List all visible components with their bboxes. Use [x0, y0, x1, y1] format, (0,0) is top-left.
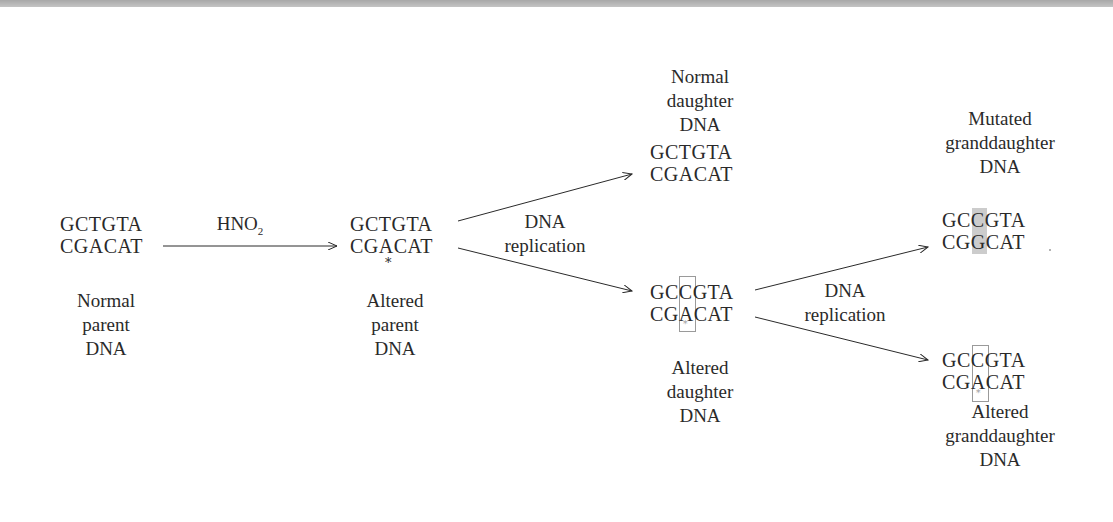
bottom-strand: CGGCAT	[942, 231, 1026, 253]
top-strand: GCTGTA	[650, 141, 733, 163]
stray-dot	[1049, 249, 1051, 251]
top-strand: GCCGTA	[650, 281, 734, 303]
mutated-granddaughter-label: Mutated granddaughter DNA	[930, 107, 1070, 179]
bottom-strand: CGACAT	[650, 303, 734, 325]
bottom-strand: CGACAT	[350, 235, 433, 257]
mutated-granddaughter-sequence: GCCGTA CGGCAT	[942, 209, 1026, 253]
top-strand: GCTGTA	[60, 213, 143, 235]
altered-daughter-sequence: GCCGTA CGACAT	[650, 281, 734, 325]
bottom-strand: CGACAT	[650, 163, 733, 185]
normal-daughter-label: Normal daughter DNA	[640, 65, 760, 137]
altered-granddaughter-label: Altered granddaughter DNA	[930, 400, 1070, 472]
bottom-strand: CGACAT	[60, 235, 143, 257]
normal-daughter-sequence: GCTGTA CGACAT	[650, 141, 733, 185]
replication-label-1: DNA replication	[500, 210, 590, 258]
altered-daughter-label: Altered daughter DNA	[640, 356, 760, 428]
top-strand: GCCGTA	[942, 209, 1026, 231]
normal-parent-label: Normal parent DNA	[56, 289, 156, 361]
normal-parent-sequence: GCTGTA CGACAT	[60, 213, 143, 257]
hno2-label: HNO2	[200, 212, 280, 243]
altered-parent-sequence: GCTGTA CGACAT	[350, 213, 433, 257]
top-strand: GCTGTA	[350, 213, 433, 235]
altered-parent-label: Altered parent DNA	[345, 289, 445, 361]
altered-granddaughter-sequence: GCCGTA CGACAT	[942, 349, 1026, 393]
bottom-strand: CGACAT	[942, 371, 1026, 393]
top-strand: GCCGTA	[942, 349, 1026, 371]
altered-base-marker: *	[385, 255, 392, 270]
altered-base-marker: *	[976, 388, 981, 398]
replication-label-2: DNA replication	[780, 279, 910, 327]
altered-base-marker: *	[683, 319, 688, 329]
